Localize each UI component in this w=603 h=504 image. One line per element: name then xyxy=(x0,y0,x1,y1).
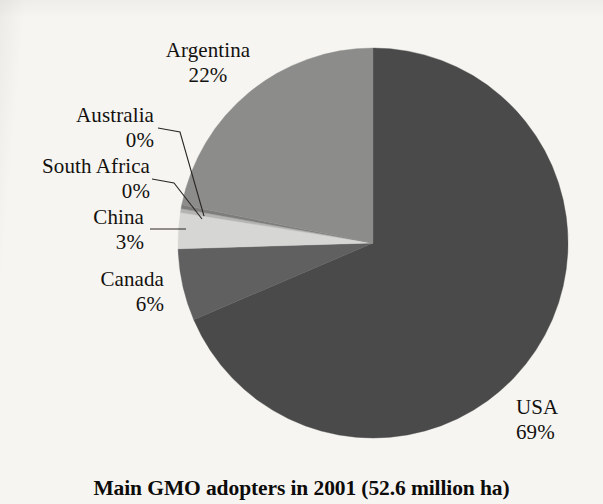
slice-label-china-name: China xyxy=(28,205,144,230)
slice-label-china: China 3% xyxy=(28,205,144,254)
slice-label-usa-name: USA xyxy=(516,395,596,420)
slice-label-south-africa-name: South Africa xyxy=(0,154,150,179)
slice-label-south-africa: South Africa 0% xyxy=(0,154,150,203)
slice-label-south-africa-value: 0% xyxy=(0,179,150,204)
slice-label-china-value: 3% xyxy=(28,230,144,255)
chart-title: Main GMO adopters in 2001 (52.6 million … xyxy=(0,476,603,501)
slice-label-canada-value: 6% xyxy=(28,292,164,317)
pie-slice-group xyxy=(178,48,568,438)
slice-label-australia-name: Australia xyxy=(18,103,154,128)
pie-chart-figure: Argentina 22% Australia 0% South Africa … xyxy=(0,0,603,504)
slice-label-argentina-value: 22% xyxy=(143,63,273,88)
slice-label-australia: Australia 0% xyxy=(18,103,154,152)
slice-label-argentina-name: Argentina xyxy=(143,38,273,63)
slice-label-argentina: Argentina 22% xyxy=(143,38,273,87)
slice-label-usa-value: 69% xyxy=(516,420,596,445)
slice-label-canada-name: Canada xyxy=(28,267,164,292)
slice-label-australia-value: 0% xyxy=(18,128,154,153)
slice-label-usa: USA 69% xyxy=(516,395,596,444)
slice-label-canada: Canada 6% xyxy=(28,267,164,316)
